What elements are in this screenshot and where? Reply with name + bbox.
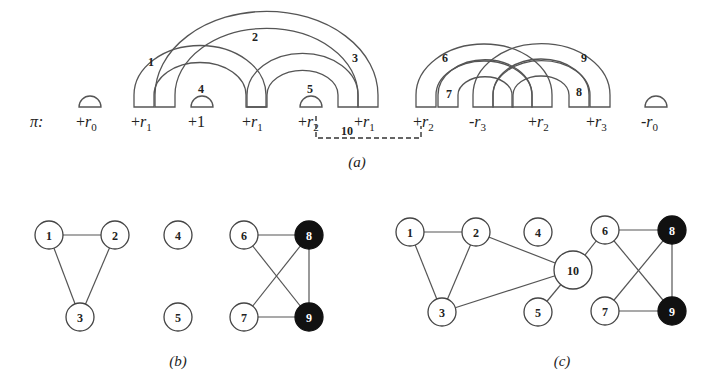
node-8: 8 <box>295 221 323 249</box>
arc-group: 1236789 <box>134 11 610 107</box>
graph-b-nodes: 123456789 <box>35 221 323 331</box>
permutation-element: -r0 <box>641 113 659 133</box>
dome-label: 4 <box>198 82 204 96</box>
breakpoint-graph-figure: π: 1236789 45 +r0+r1+1+r1+r2+r1+r2-r3+r2… <box>0 0 709 381</box>
svg-text:8: 8 <box>669 224 675 238</box>
dome-end <box>79 96 101 107</box>
svg-text:9: 9 <box>669 305 675 319</box>
pi-label: π: <box>30 113 43 130</box>
dome-label: 5 <box>307 82 313 96</box>
permutation-element: +r1 <box>242 113 263 133</box>
arc-label: 9 <box>581 51 587 65</box>
node-2: 2 <box>462 218 490 246</box>
node-3: 3 <box>428 298 456 326</box>
svg-text:9: 9 <box>306 311 312 325</box>
caption-a: (a) <box>348 154 366 171</box>
svg-text:3: 3 <box>439 306 445 320</box>
node-10: 10 <box>554 251 592 289</box>
arc-label: 2 <box>252 30 258 44</box>
dashed-edge-label: 10 <box>341 124 353 138</box>
svg-text:5: 5 <box>535 306 541 320</box>
node-2: 2 <box>101 221 129 249</box>
svg-text:4: 4 <box>535 226 541 240</box>
node-4: 4 <box>524 218 552 246</box>
edge-3-10 <box>442 270 573 312</box>
dome-4 <box>191 96 213 107</box>
permutation-element: +1 <box>188 113 205 130</box>
arc-label: 6 <box>442 51 448 65</box>
node-5: 5 <box>524 298 552 326</box>
svg-text:8: 8 <box>306 229 312 243</box>
svg-text:3: 3 <box>77 311 83 325</box>
node-8: 8 <box>658 216 686 244</box>
svg-text:7: 7 <box>241 311 247 325</box>
permutation-element: +r2 <box>528 113 549 133</box>
svg-text:1: 1 <box>407 226 413 240</box>
arc-9 <box>473 44 610 107</box>
node-1: 1 <box>396 218 424 246</box>
arc-label: 1 <box>148 55 154 69</box>
permutation-elements: +r0+r1+1+r1+r2+r1+r2-r3+r2+r3-r0 <box>76 113 659 133</box>
dome-5 <box>300 96 322 107</box>
svg-text:7: 7 <box>602 305 608 319</box>
svg-text:5: 5 <box>175 311 181 325</box>
dome-end <box>645 96 667 107</box>
svg-text:2: 2 <box>473 226 479 240</box>
permutation-element: +r1 <box>354 113 375 133</box>
svg-text:10: 10 <box>567 264 579 278</box>
node-9: 9 <box>295 303 323 331</box>
caption-b: (b) <box>169 353 187 370</box>
svg-text:2: 2 <box>112 229 118 243</box>
node-5: 5 <box>164 303 192 331</box>
arc-label: 8 <box>576 85 582 99</box>
arc-label: 3 <box>352 51 358 65</box>
node-1: 1 <box>35 221 63 249</box>
node-7: 7 <box>230 303 258 331</box>
permutation-element: -r3 <box>469 113 487 133</box>
node-6: 6 <box>230 221 258 249</box>
panel-a-permutation-arcs: π: 1236789 45 +r0+r1+1+r1+r2+r1+r2-r3+r2… <box>30 11 667 171</box>
permutation-element: +r2 <box>413 113 434 133</box>
arc-label: 7 <box>446 87 452 101</box>
node-9: 9 <box>658 297 686 325</box>
svg-text:4: 4 <box>175 229 181 243</box>
panel-c-graph: 12345106789 (c) <box>396 216 686 370</box>
node-4: 4 <box>164 221 192 249</box>
caption-c: (c) <box>554 353 571 370</box>
permutation-element: +r3 <box>586 113 607 133</box>
node-7: 7 <box>591 297 619 325</box>
node-6: 6 <box>591 216 619 244</box>
permutation-element: +r0 <box>76 113 97 133</box>
panel-b-graph: 123456789 (b) <box>35 221 323 370</box>
svg-text:6: 6 <box>602 224 608 238</box>
svg-text:6: 6 <box>241 229 247 243</box>
svg-text:1: 1 <box>46 229 52 243</box>
node-3: 3 <box>66 303 94 331</box>
permutation-element: +r1 <box>131 113 152 133</box>
